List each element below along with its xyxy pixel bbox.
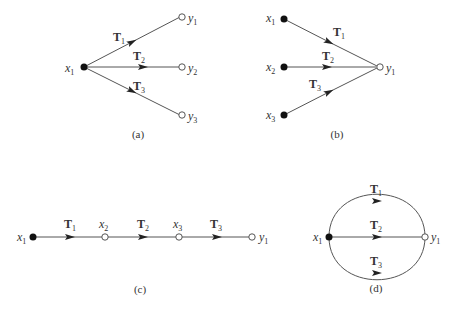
label-a-y3: y3 — [187, 109, 197, 125]
node-a-y2 — [179, 64, 185, 70]
node-b-x1 — [281, 16, 288, 23]
label-b-x1: x1 — [265, 11, 275, 27]
label-a-y2: y2 — [187, 61, 197, 77]
node-c-x3 — [176, 234, 182, 240]
label-d-t2: T2 — [370, 218, 382, 234]
label-b-t1: T1 — [333, 25, 345, 41]
node-a-x1 — [81, 64, 88, 71]
label-c-x2: x2 — [98, 217, 108, 233]
label-b-x3: x3 — [265, 108, 275, 124]
caption-a: (a) — [132, 128, 145, 141]
label-b-t3: T3 — [309, 77, 321, 93]
label-c-y1: y1 — [258, 230, 268, 246]
label-c-x1: x1 — [16, 230, 26, 246]
edge-a-t1 — [84, 17, 180, 67]
node-a-y3 — [179, 112, 185, 118]
label-a-x1: x1 — [64, 61, 74, 77]
edge-a-t3 — [84, 67, 180, 115]
label-a-t3: T3 — [133, 79, 145, 95]
label-b-x2: x2 — [265, 60, 275, 76]
caption-c: (c) — [134, 283, 147, 296]
diagram-c: x1 x2 x3 y1 T1 T2 T3 (c) — [16, 217, 268, 296]
label-b-y1: y1 — [385, 61, 395, 77]
label-d-t3: T3 — [370, 254, 382, 270]
node-b-x2 — [281, 64, 288, 71]
node-c-x2 — [102, 234, 108, 240]
label-d-y1: y1 — [430, 230, 440, 246]
label-a-y1: y1 — [187, 11, 197, 27]
label-d-t1: T1 — [370, 182, 382, 198]
arrow-d-t3 — [372, 270, 382, 276]
node-d-y1 — [422, 234, 428, 240]
diagram-a: x1 y1 y2 y3 T1 T2 T3 (a) — [64, 11, 197, 141]
label-a-t1: T1 — [113, 30, 125, 46]
label-c-t3: T3 — [210, 217, 222, 233]
label-c-t2: T2 — [137, 217, 149, 233]
node-c-y1 — [249, 234, 255, 240]
label-b-t2: T2 — [322, 49, 334, 65]
node-a-y1 — [179, 14, 185, 20]
label-d-x1: x1 — [312, 230, 322, 246]
caption-b: (b) — [331, 128, 344, 141]
node-c-x1 — [30, 234, 37, 241]
diagram-canvas: x1 y1 y2 y3 T1 T2 T3 (a) x1 x2 x3 y1 T1 … — [0, 0, 463, 311]
label-a-t2: T2 — [133, 49, 145, 65]
node-d-x1 — [326, 234, 333, 241]
edge-b-t3 — [284, 68, 377, 115]
label-c-x3: x3 — [172, 217, 182, 233]
node-b-y1 — [377, 64, 383, 70]
label-c-t1: T1 — [64, 217, 76, 233]
arrow-d-t1 — [372, 198, 382, 204]
diagram-d: x1 y1 T1 T2 T3 (d) — [312, 182, 440, 295]
caption-d: (d) — [370, 282, 383, 295]
diagram-b: x1 x2 x3 y1 T1 T2 T3 (b) — [265, 11, 395, 141]
node-b-x3 — [281, 112, 288, 119]
